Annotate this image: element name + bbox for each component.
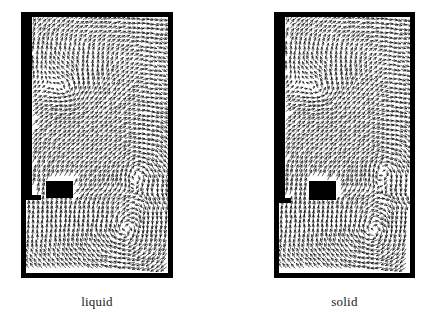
panel-caption-liquid: liquid	[21, 294, 173, 310]
obstacle-block	[46, 181, 73, 198]
panel-solid	[274, 12, 415, 278]
left-wall-notch	[21, 195, 41, 200]
panel-liquid	[21, 12, 173, 278]
panel-caption-solid: solid	[274, 294, 415, 310]
vector-field-figure: liquid solid	[0, 0, 435, 324]
vector-field-plot-solid	[274, 12, 415, 278]
left-wall-step	[274, 12, 285, 198]
left-wall-step	[21, 12, 32, 195]
left-wall-notch	[274, 198, 291, 203]
obstacle-block	[309, 181, 336, 200]
vector-field-plot-liquid	[21, 12, 173, 278]
